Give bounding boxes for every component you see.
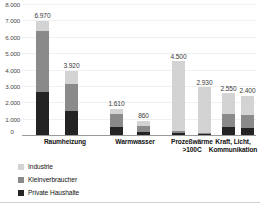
y-axis-tick-label: 7.000 [0, 17, 20, 24]
bars-layer: 6.9703.9201.6108604.5002.9302.5502.400 [22, 4, 256, 135]
bar-segment-industrie [222, 93, 235, 113]
bar: 1.610 [110, 109, 123, 135]
bar-segment-industrie [198, 87, 211, 133]
x-axis-line [22, 135, 256, 136]
bar-segment-klein [36, 31, 49, 92]
y-axis-tick-label: 5.000 [0, 50, 20, 57]
category-label: Warmwasser [100, 138, 170, 146]
bar-segment-haushalte [36, 92, 49, 135]
plot-area: 8.0007.0006.0005.0004.0003.0002.0001.000… [22, 4, 256, 135]
bar-value-label: 2.550 [220, 85, 236, 92]
bar-value-label: 3.920 [63, 62, 79, 69]
bar-segment-industrie [36, 21, 49, 31]
bar-value-label: 6.970 [34, 12, 50, 19]
y-axis-tick-label: 2.000 [0, 99, 20, 106]
bar: 2.400 [241, 96, 254, 135]
bar: 4.500 [172, 61, 185, 135]
bar-segment-haushalte [172, 133, 185, 135]
legend-item: Kleinverbraucher [18, 173, 198, 186]
y-axis-tick-label: 1.000 [0, 115, 20, 122]
bar: 2.930 [198, 87, 211, 135]
y-axis-tick-label: 4.000 [0, 66, 20, 73]
category-label-line1: Raumheizung [24, 138, 106, 146]
bar: 3.920 [65, 71, 78, 135]
legend-swatch-icon [18, 177, 24, 183]
bar-segment-haushalte [241, 128, 254, 135]
y-axis-tick-label: 8.000 [0, 1, 20, 8]
chart-legend: IndustrieKleinverbraucherPrivate Haushal… [18, 160, 198, 199]
footer-divider [0, 202, 260, 203]
bar-value-label: 860 [138, 112, 149, 119]
bar-segment-klein [222, 114, 235, 127]
bar-segment-haushalte [137, 132, 150, 135]
bar-segment-haushalte [222, 127, 235, 135]
y-axis-tick-label: 3.000 [0, 82, 20, 89]
legend-swatch-icon [18, 190, 24, 196]
bar-value-label: 2.400 [239, 87, 255, 94]
bar-segment-industrie [172, 61, 185, 131]
legend-item: Industrie [18, 160, 198, 173]
legend-label: Industrie [28, 163, 53, 170]
bar: 2.550 [222, 93, 235, 135]
bar-segment-haushalte [65, 111, 78, 135]
category-label-line2: Kommunikation [202, 146, 260, 154]
y-axis-zero-label: 0 [0, 128, 14, 135]
category-label: Kraft, Licht,Kommunikation [202, 138, 260, 155]
bar-value-label: 4.500 [170, 53, 186, 60]
bar-segment-industrie [65, 71, 78, 84]
y-axis-tick-label: 6.000 [0, 33, 20, 40]
bar-segment-klein [65, 84, 78, 111]
bar-segment-haushalte [198, 134, 211, 135]
bar: 6.970 [36, 21, 49, 135]
bar-value-label: 2.930 [196, 79, 212, 86]
bar-value-label: 1.610 [108, 100, 124, 107]
bar-segment-klein [241, 115, 254, 128]
bar-segment-klein [110, 114, 123, 127]
bar-segment-haushalte [110, 127, 123, 135]
legend-label: Kleinverbraucher [28, 176, 77, 183]
legend-swatch-icon [18, 164, 24, 170]
category-label-line1: Kraft, Licht, [202, 138, 260, 146]
legend-item: Private Haushalte [18, 186, 198, 199]
category-label: Raumheizung [24, 138, 106, 146]
legend-label: Private Haushalte [28, 189, 79, 196]
bar-segment-industrie [241, 96, 254, 115]
category-label-line1: Warmwasser [100, 138, 170, 146]
bar: 860 [137, 121, 150, 135]
x-axis-categories: RaumheizungWarmwasserProzeßwärme>100CKra… [22, 138, 256, 160]
chart-root: 8.0007.0006.0005.0004.0003.0002.0001.000… [0, 0, 260, 205]
